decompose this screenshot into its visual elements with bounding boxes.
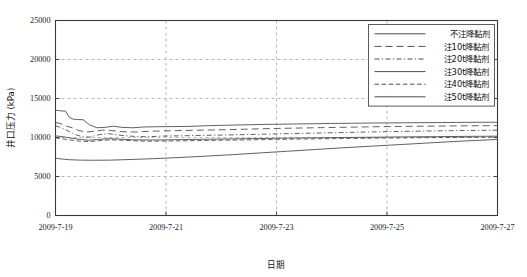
y-axis-title: 井口压力 (kPa)	[5, 88, 16, 148]
x-tick-label: 2009-7-19	[38, 223, 72, 232]
y-tick-label: 15000	[30, 94, 50, 103]
y-tick-label: 20000	[30, 55, 50, 64]
legend-label-5: 注50t降黏剂	[444, 92, 490, 102]
x-tick-label: 2009-7-25	[370, 223, 404, 232]
legend-label-0: 不注降黏剂	[450, 29, 490, 39]
legend-label-2: 注20t降黏剂	[444, 54, 490, 64]
x-tick-label: 2009-7-27	[480, 223, 514, 232]
legend-label-1: 注10t降黏剂	[444, 42, 490, 52]
y-tick-label: 5000	[34, 172, 50, 181]
chart-legend: 不注降黏剂注10t降黏剂注20t降黏剂注30t降黏剂注40t降黏剂注50t降黏剂	[369, 25, 495, 107]
y-tick-label: 25000	[30, 16, 50, 25]
legend-label-3: 注30t降黏剂	[444, 67, 490, 77]
x-tick-label: 2009-7-21	[149, 223, 183, 232]
wellhead-pressure-line-chart: 0500010000150002000025000 2009-7-192009-…	[0, 0, 527, 277]
y-tick-label: 0	[46, 211, 50, 220]
y-tick-label: 10000	[30, 133, 50, 142]
chart-figure: 0500010000150002000025000 2009-7-192009-…	[0, 0, 527, 277]
legend-label-4: 注40t降黏剂	[444, 79, 490, 89]
x-axis-title: 日期	[267, 260, 285, 270]
x-tick-label: 2009-7-23	[259, 223, 293, 232]
